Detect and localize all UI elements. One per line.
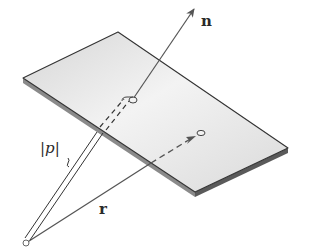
normal-label: n [201, 14, 212, 29]
distance-brace [67, 158, 69, 167]
position-vector-label: r [99, 202, 107, 217]
point-on-plane [197, 130, 205, 135]
origin-point [23, 240, 29, 246]
foot-of-normal-point [129, 97, 137, 103]
position-vector-r-solid [26, 163, 151, 243]
distance-line-a-solid [25, 132, 97, 238]
diagram-canvas [0, 0, 311, 247]
distance-label: |p| [40, 141, 60, 156]
plane [23, 32, 288, 197]
